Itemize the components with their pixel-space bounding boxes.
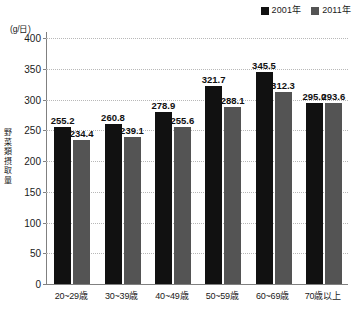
plot-area: 050100150200250300350400 255.2234.4260.8… (46, 38, 348, 284)
bar-2001年-70歳以上: 295.0 (306, 103, 323, 284)
y-axis-title: 野菜類摂取量 (2, 128, 13, 185)
y-axis-tick-label: 400 (24, 33, 41, 44)
bar-value-label: 321.7 (202, 74, 226, 85)
gridline (46, 223, 348, 224)
y-axis-tick-label: 350 (24, 63, 41, 74)
y-axis-tick-mark (43, 253, 46, 254)
y-axis-tick-label: 250 (24, 125, 41, 136)
gridline (46, 192, 348, 193)
bar-value-label: 255.6 (170, 115, 194, 126)
bar-value-label: 345.5 (252, 60, 276, 71)
y-axis-tick-mark (43, 100, 46, 101)
y-axis-tick-label: 100 (24, 217, 41, 228)
gridline (46, 161, 348, 162)
x-axis-category-label: 30~39歳 (96, 289, 146, 302)
x-axis-category-label: 20~29歳 (46, 289, 96, 302)
bar-group: 260.8239.1 (105, 38, 141, 284)
bar-2011年-50~59歳: 288.1 (224, 107, 241, 284)
gridline (46, 69, 348, 70)
bar-value-label: 278.9 (151, 100, 175, 111)
bar-value-label: 288.1 (221, 95, 245, 106)
gridline (46, 38, 348, 39)
bar-value-label: 260.8 (101, 112, 125, 123)
bar-value-label: 293.6 (321, 91, 345, 102)
x-axis-category-label: 60~69歳 (247, 289, 297, 302)
y-axis-tick-mark (43, 223, 46, 224)
bar-value-label: 255.2 (51, 115, 75, 126)
y-axis-tick-label: 300 (24, 94, 41, 105)
y-axis-tick-label: 50 (30, 248, 41, 259)
bar-group: 255.2234.4 (54, 38, 90, 284)
bar-value-label: 312.3 (271, 80, 295, 91)
y-axis-tick-label: 0 (35, 279, 41, 290)
legend-entry-2001: 2001年 (261, 6, 302, 15)
x-axis-category-label: 50~59歳 (197, 289, 247, 302)
legend-label-2011: 2011年 (322, 6, 351, 15)
legend-label-2001: 2001年 (272, 6, 302, 15)
x-axis-category-label: 70歳以上 (298, 289, 348, 302)
y-axis-tick-mark (43, 69, 46, 70)
bar-value-label: 234.4 (70, 128, 94, 139)
bar-2011年-40~49歳: 255.6 (174, 127, 191, 284)
gridline (46, 253, 348, 254)
square-marker-icon (261, 7, 269, 15)
bar-2001年-30~39歳: 260.8 (105, 124, 122, 284)
vegetable-intake-bar-chart: 2001年 2011年 (g/日) 野菜類摂取量 050100150200250… (0, 0, 359, 313)
y-axis-tick-mark (43, 38, 46, 39)
y-axis-tick-label: 200 (24, 156, 41, 167)
bar-2011年-60~69歳: 312.3 (275, 92, 292, 284)
gridline (46, 284, 348, 285)
bar-group: 321.7288.1 (205, 38, 241, 284)
bar-2011年-70歳以上: 293.6 (325, 103, 342, 284)
square-marker-icon (311, 7, 319, 15)
bar-group: 278.9255.6 (155, 38, 191, 284)
y-axis-tick-mark (43, 284, 46, 285)
x-axis-category-label: 40~49歳 (147, 289, 197, 302)
bar-2001年-60~69歳: 345.5 (256, 72, 273, 284)
bar-group: 295.0293.6 (306, 38, 342, 284)
bar-2001年-40~49歳: 278.9 (155, 112, 172, 284)
bar-2011年-20~29歳: 234.4 (73, 140, 90, 284)
bar-group: 345.5312.3 (256, 38, 292, 284)
bar-2001年-20~29歳: 255.2 (54, 127, 71, 284)
y-axis-tick-mark (43, 130, 46, 131)
bar-value-label: 239.1 (120, 125, 144, 136)
y-axis-tick-label: 150 (24, 186, 41, 197)
chart-legend: 2001年 2011年 (261, 6, 351, 15)
y-axis-tick-mark (43, 192, 46, 193)
y-axis-tick-mark (43, 161, 46, 162)
bar-2001年-50~59歳: 321.7 (205, 86, 222, 284)
bar-2011年-30~39歳: 239.1 (124, 137, 141, 284)
legend-entry-2011: 2011年 (311, 6, 351, 15)
